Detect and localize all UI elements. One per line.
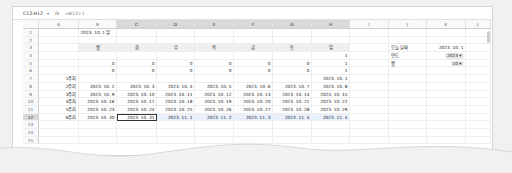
cell-g3[interactable]: 토 [273, 44, 312, 52]
cell-k12[interactable] [427, 114, 466, 122]
cell-j6[interactable] [389, 67, 427, 75]
cell-f1[interactable] [234, 29, 273, 37]
cell-h5[interactable]: 1 [312, 60, 350, 68]
cell-k7[interactable] [427, 75, 466, 83]
cell-f3[interactable]: 금 [234, 44, 273, 52]
formula-input[interactable]: =B12+1 [65, 11, 85, 16]
cell-i11[interactable] [350, 106, 389, 114]
cell-c5[interactable]: 0 [117, 60, 157, 68]
cell-d5[interactable]: 0 [157, 60, 195, 68]
row-header-9[interactable]: 9 [23, 91, 39, 99]
cell-j11[interactable] [389, 106, 427, 114]
cell-e13[interactable] [195, 121, 234, 129]
cell-f4[interactable] [234, 52, 273, 60]
column-header-j[interactable]: J [389, 20, 427, 29]
cell-k6[interactable] [427, 67, 466, 75]
cell-h2[interactable] [312, 37, 350, 45]
cell-c9[interactable]: 2023. 10. 10 [117, 91, 157, 99]
cell-e8[interactable]: 2023. 10. 5 [195, 83, 234, 91]
cell-f2[interactable] [234, 37, 273, 45]
cell-h7[interactable]: 2023. 10. 1 [312, 75, 350, 83]
cell-k10[interactable] [427, 98, 466, 106]
cell-i5[interactable] [350, 60, 389, 68]
cell-b13[interactable] [79, 121, 117, 129]
cell-e5[interactable]: 0 [195, 60, 234, 68]
cell-k1[interactable] [427, 29, 466, 37]
cell-i10[interactable] [350, 98, 389, 106]
cell-h9[interactable]: 2023. 10. 15 [312, 91, 350, 99]
cell-c2[interactable] [117, 37, 157, 45]
cell-b11[interactable]: 2023. 10. 23 [79, 106, 117, 114]
cell-b5[interactable]: 0 [79, 60, 117, 68]
cell-j7[interactable] [389, 75, 427, 83]
cell-j9[interactable] [389, 91, 427, 99]
row-header-5[interactable]: 5 [23, 60, 39, 68]
cell-j1[interactable] [389, 29, 427, 37]
column-header-h[interactable]: H [312, 20, 350, 29]
vertical-scrollbar[interactable] [487, 31, 490, 43]
cell-a7[interactable]: 1주차 [39, 75, 79, 83]
cell-g9[interactable]: 2023. 10. 14 [273, 91, 312, 99]
cell-c10[interactable]: 2023. 10. 17 [117, 98, 157, 106]
cell-j13[interactable] [389, 121, 427, 129]
cell-j10[interactable] [389, 98, 427, 106]
cell-c13[interactable] [117, 121, 157, 129]
cell-j4[interactable]: 연도 [389, 52, 427, 60]
column-header-l[interactable]: L [466, 20, 491, 29]
cell-f7[interactable] [234, 75, 273, 83]
cell-c3[interactable]: 화 [117, 44, 157, 52]
cell-l5[interactable] [466, 60, 491, 68]
cell-j2[interactable] [389, 37, 427, 45]
cell-l13[interactable] [466, 121, 491, 129]
row-header-2[interactable]: 2 [23, 37, 39, 45]
cell-d4[interactable] [157, 52, 195, 60]
column-header-e[interactable]: E [195, 20, 234, 29]
cell-h8[interactable]: 2023. 10. 8 [312, 83, 350, 91]
cell-a4[interactable] [39, 52, 79, 60]
cell-f10[interactable]: 2023. 10. 20 [234, 98, 273, 106]
row-header-8[interactable]: 8 [23, 83, 39, 91]
cell-e11[interactable]: 2023. 10. 26 [195, 106, 234, 114]
cell-i6[interactable] [350, 67, 389, 75]
cell-g8[interactable]: 2023. 10. 7 [273, 83, 312, 91]
cell-d10[interactable]: 2023. 10. 18 [157, 98, 195, 106]
cell-k4[interactable]: 2023 ▾ [427, 52, 466, 60]
cell-l8[interactable] [466, 83, 491, 91]
cell-b4[interactable] [79, 52, 117, 60]
cell-c8[interactable]: 2023. 10. 3 [117, 83, 157, 91]
cell-h11[interactable]: 2023. 10. 29 [312, 106, 350, 114]
cell-e3[interactable]: 목 [195, 44, 234, 52]
cell-g11[interactable]: 2023. 10. 28 [273, 106, 312, 114]
cell-l12[interactable] [466, 114, 491, 122]
cell-b2[interactable] [79, 37, 117, 45]
cell-g5[interactable]: 0 [273, 60, 312, 68]
cell-f6[interactable]: 0 [234, 67, 273, 75]
cell-d7[interactable] [157, 75, 195, 83]
cell-i4[interactable] [350, 52, 389, 60]
cell-e7[interactable] [195, 75, 234, 83]
cell-k8[interactable] [427, 83, 466, 91]
row-header-11[interactable]: 11 [23, 106, 39, 114]
cell-j5[interactable]: 월 [389, 60, 427, 68]
cell-g13[interactable] [273, 121, 312, 129]
cell-g4[interactable] [273, 52, 312, 60]
cell-a6[interactable] [39, 67, 79, 75]
cell-i7[interactable] [350, 75, 389, 83]
column-header-k[interactable]: K [427, 20, 466, 29]
cell-c1[interactable] [117, 29, 157, 37]
cell-k2[interactable] [427, 37, 466, 45]
cell-a5[interactable] [39, 60, 79, 68]
cell-d12[interactable]: 2023. 11. 1 [157, 114, 195, 122]
cell-e10[interactable]: 2023. 10. 19 [195, 98, 234, 106]
cell-e4[interactable] [195, 52, 234, 60]
cell-a13[interactable] [39, 121, 79, 129]
cell-f9[interactable]: 2023. 10. 13 [234, 91, 273, 99]
cell-i3[interactable] [350, 44, 389, 52]
cell-a9[interactable]: 3주차 [39, 91, 79, 99]
cell-g1[interactable] [273, 29, 312, 37]
cell-e1[interactable] [195, 29, 234, 37]
cell-k11[interactable] [427, 106, 466, 114]
cell-d8[interactable]: 2023. 10. 4 [157, 83, 195, 91]
cell-i13[interactable] [350, 121, 389, 129]
cell-d6[interactable]: 0 [157, 67, 195, 75]
